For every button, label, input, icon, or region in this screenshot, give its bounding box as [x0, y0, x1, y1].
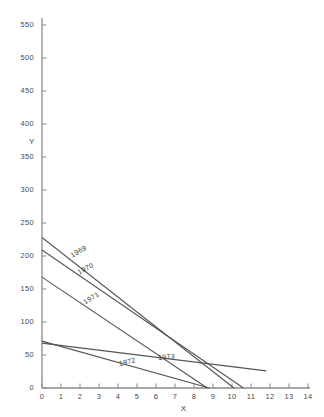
x-axis-tick-label: 8: [187, 392, 201, 401]
y-axis-tick-label: 200: [8, 251, 34, 260]
y-axis-tick-label: 150: [8, 284, 34, 293]
y-axis-tick-label: 100: [8, 317, 34, 326]
x-axis-tick-label: 2: [73, 392, 87, 401]
x-axis-title: X: [181, 404, 186, 413]
y-axis-tick-label: 50: [8, 350, 34, 359]
y-axis-tick-label: 500: [8, 53, 34, 62]
y-axis-tick-label: 400: [8, 119, 34, 128]
x-axis-tick-label: 12: [263, 392, 277, 401]
x-axis-tick-label: 1: [54, 392, 68, 401]
series-line-1970: [42, 250, 243, 388]
y-axis-tick-label: 250: [8, 218, 34, 227]
x-axis-tick-label: 5: [130, 392, 144, 401]
x-axis-tick-label: 13: [282, 392, 296, 401]
x-axis-tick-label: 0: [35, 392, 49, 401]
x-axis-tick-label: 11: [244, 392, 258, 401]
series-line-1973: [42, 343, 266, 371]
series-line-1969: [42, 238, 234, 388]
x-axis-tick-label: 3: [92, 392, 106, 401]
y-axis-tick-label: 0: [8, 383, 34, 392]
y-axis-tick-label: 450: [8, 86, 34, 95]
x-axis-tick-label: 7: [168, 392, 182, 401]
y-axis-tick-label: 350: [8, 152, 34, 161]
x-axis-tick-label: 9: [206, 392, 220, 401]
x-axis-tick-label: 10: [225, 392, 239, 401]
y-axis-title: Y: [29, 137, 34, 146]
series-line-1971: [42, 277, 207, 388]
x-axis-tick-label: 6: [149, 392, 163, 401]
line-chart: 050100150200250300350400450500550 012345…: [0, 0, 324, 417]
y-axis-tick-label: 300: [8, 185, 34, 194]
x-axis-tick-label: 4: [111, 392, 125, 401]
x-axis-tick-label: 14: [301, 392, 315, 401]
y-axis-tick-label: 550: [8, 20, 34, 29]
